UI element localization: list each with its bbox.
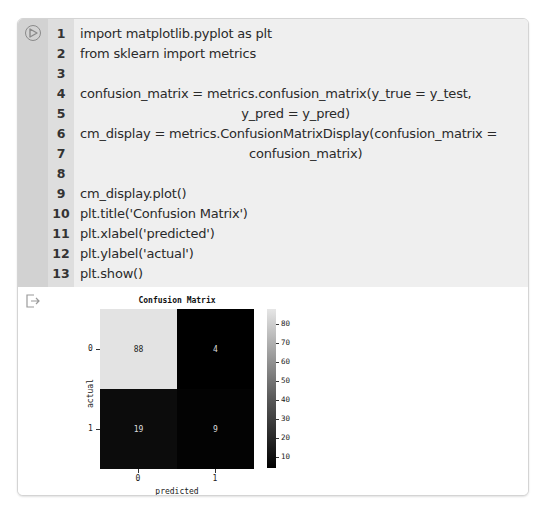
colorbar bbox=[267, 309, 276, 468]
code-line[interactable]: 10plt.title('Confusion Matrix') bbox=[18, 204, 528, 224]
line-number: 4 bbox=[48, 84, 74, 104]
line-number: 12 bbox=[48, 244, 74, 264]
code-line[interactable]: 12plt.ylabel('actual') bbox=[18, 244, 528, 264]
colorbar-tick-mark bbox=[276, 324, 279, 325]
colorbar-tick-mark bbox=[276, 457, 279, 458]
line-number: 10 bbox=[48, 204, 74, 224]
x-tick-mark-1 bbox=[215, 469, 216, 473]
code-line[interactable]: 6cm_display = metrics.ConfusionMatrixDis… bbox=[18, 124, 528, 144]
code-line[interactable]: 13plt.show() bbox=[18, 264, 528, 284]
y-axis-label: actual bbox=[86, 374, 95, 414]
code-line[interactable]: 1import matplotlib.pyplot as plt bbox=[18, 24, 528, 44]
colorbar-tick-label: 10 bbox=[281, 453, 290, 461]
code-line[interactable]: 11plt.xlabel('predicted') bbox=[18, 224, 528, 244]
code-text[interactable]: cm_display.plot() bbox=[80, 184, 186, 204]
matrix-cell-1-1: 9 bbox=[177, 389, 254, 469]
code-editor[interactable]: 1import matplotlib.pyplot as plt2from sk… bbox=[18, 19, 528, 287]
line-number: 2 bbox=[48, 44, 74, 64]
line-number: 3 bbox=[48, 64, 74, 84]
colorbar-tick-mark bbox=[276, 381, 279, 382]
y-tick-label-0: 0 bbox=[88, 344, 93, 353]
code-text[interactable]: confusion_matrix = metrics.confusion_mat… bbox=[80, 84, 472, 104]
colorbar-tick-mark bbox=[276, 438, 279, 439]
line-number: 13 bbox=[48, 264, 74, 284]
chart-title: Confusion Matrix bbox=[100, 296, 254, 305]
matrix-cell-0-0: 88 bbox=[100, 309, 177, 389]
code-line[interactable]: 7 confusion_matrix) bbox=[18, 144, 528, 164]
line-number: 1 bbox=[48, 24, 74, 44]
code-line[interactable]: 5 y_pred = y_pred) bbox=[18, 104, 528, 124]
line-number: 5 bbox=[48, 104, 74, 124]
code-text[interactable]: y_pred = y_pred) bbox=[80, 104, 350, 124]
line-number: 9 bbox=[48, 184, 74, 204]
matrix-cell-1-0: 19 bbox=[100, 389, 177, 469]
x-axis-label: predicted bbox=[100, 487, 254, 496]
colorbar-tick-label: 40 bbox=[281, 396, 290, 404]
code-line[interactable]: 3 bbox=[18, 64, 528, 84]
code-text[interactable]: cm_display = metrics.ConfusionMatrixDisp… bbox=[80, 124, 497, 144]
code-text[interactable]: plt.show() bbox=[80, 264, 143, 284]
line-number: 7 bbox=[48, 144, 74, 164]
colorbar-tick-label: 80 bbox=[281, 320, 290, 328]
colorbar-tick-mark bbox=[276, 362, 279, 363]
code-text[interactable]: plt.xlabel('predicted') bbox=[80, 224, 215, 244]
code-line[interactable]: 8 bbox=[18, 164, 528, 184]
colorbar-tick-label: 60 bbox=[281, 358, 290, 366]
line-number: 6 bbox=[48, 124, 74, 144]
x-tick-mark-0 bbox=[138, 469, 139, 473]
output-arrow-icon bbox=[25, 293, 41, 309]
matrix-cell-0-1: 4 bbox=[177, 309, 254, 389]
y-tick-mark-1 bbox=[96, 429, 100, 430]
colorbar-tick-label: 20 bbox=[281, 434, 290, 442]
code-text[interactable]: import matplotlib.pyplot as plt bbox=[80, 24, 272, 44]
colorbar-tick-label: 30 bbox=[281, 415, 290, 423]
code-line[interactable]: 2from sklearn import metrics bbox=[18, 44, 528, 64]
code-text[interactable]: plt.title('Confusion Matrix') bbox=[80, 204, 248, 224]
confusion-matrix-heatmap: 88 4 19 9 bbox=[100, 309, 254, 469]
y-tick-label-1: 1 bbox=[88, 424, 93, 433]
code-text[interactable]: plt.ylabel('actual') bbox=[80, 244, 194, 264]
colorbar-tick-mark bbox=[276, 419, 279, 420]
code-text[interactable]: confusion_matrix) bbox=[80, 144, 362, 164]
code-text[interactable]: from sklearn import metrics bbox=[80, 44, 256, 64]
notebook-cell: 1import matplotlib.pyplot as plt2from sk… bbox=[17, 18, 529, 496]
cell-output: Confusion Matrix 88 4 19 9 0 1 0 1 predi… bbox=[18, 287, 528, 495]
x-tick-label-1: 1 bbox=[205, 474, 225, 483]
code-line[interactable]: 9cm_display.plot() bbox=[18, 184, 528, 204]
colorbar-tick-mark bbox=[276, 343, 279, 344]
code-line[interactable]: 4confusion_matrix = metrics.confusion_ma… bbox=[18, 84, 528, 104]
line-number: 8 bbox=[48, 164, 74, 184]
colorbar-tick-mark bbox=[276, 400, 279, 401]
colorbar-tick-label: 70 bbox=[281, 339, 290, 347]
y-tick-mark-0 bbox=[96, 349, 100, 350]
x-tick-label-0: 0 bbox=[128, 474, 148, 483]
line-number: 11 bbox=[48, 224, 74, 244]
colorbar-tick-label: 50 bbox=[281, 377, 290, 385]
